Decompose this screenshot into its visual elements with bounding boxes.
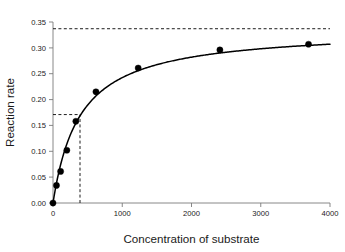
chart-figure: 0.00 0.05 0.10 0.15 0.20 0.25 0.30 0.35 … bbox=[0, 0, 345, 252]
data-point bbox=[53, 182, 59, 188]
x-tick-labels: 0 1000 2000 3000 4000 bbox=[51, 209, 339, 218]
data-point bbox=[73, 118, 79, 124]
y-tick-label: 0.15 bbox=[31, 121, 46, 130]
data-point bbox=[217, 47, 223, 53]
y-axis-title: Reaction rate bbox=[3, 78, 16, 147]
michaelis-menten-fit-curve bbox=[53, 44, 330, 203]
x-tick-label: 2000 bbox=[183, 209, 200, 218]
data-point bbox=[135, 65, 141, 71]
y-tick-label: 0.05 bbox=[31, 173, 46, 182]
x-tick-label: 3000 bbox=[252, 209, 269, 218]
y-tick-label: 0.30 bbox=[31, 44, 46, 53]
annotation-guides bbox=[53, 29, 330, 203]
y-tick-label: 0.35 bbox=[31, 18, 46, 27]
data-point bbox=[305, 41, 311, 47]
axis-group bbox=[49, 22, 330, 207]
y-tick-label: 0.00 bbox=[31, 199, 46, 208]
y-tick-labels: 0.00 0.05 0.10 0.15 0.20 0.25 0.30 0.35 bbox=[31, 18, 46, 208]
x-tick-marks bbox=[53, 203, 330, 207]
x-tick-label: 1000 bbox=[114, 209, 131, 218]
x-tick-label: 0 bbox=[51, 209, 55, 218]
y-tick-label: 0.25 bbox=[31, 69, 46, 78]
plot-area: 0.00 0.05 0.10 0.15 0.20 0.25 0.30 0.35 … bbox=[0, 0, 345, 252]
data-point bbox=[50, 200, 56, 206]
data-point bbox=[64, 147, 70, 153]
y-tick-label: 0.20 bbox=[31, 95, 46, 104]
y-tick-label: 0.10 bbox=[31, 147, 46, 156]
x-tick-label: 4000 bbox=[322, 209, 339, 218]
data-point-group bbox=[50, 41, 312, 206]
x-axis-title: Concentration of substrate bbox=[124, 232, 260, 245]
y-tick-marks bbox=[49, 22, 53, 203]
data-point bbox=[93, 89, 99, 95]
data-point bbox=[58, 168, 64, 174]
